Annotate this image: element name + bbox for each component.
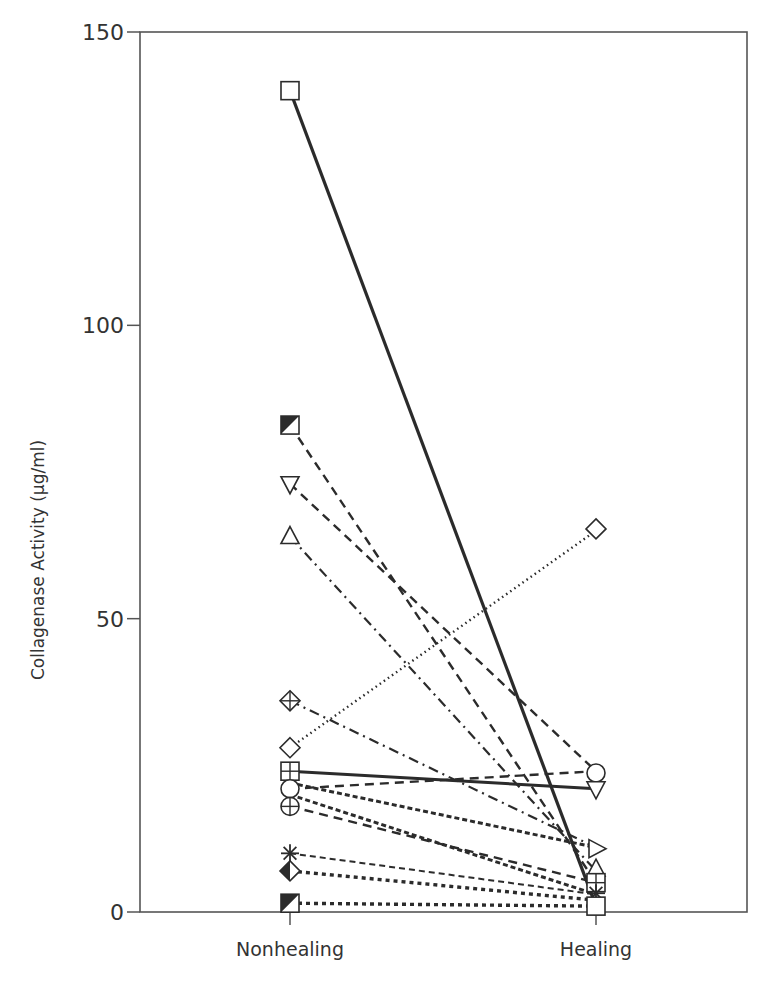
- healing-triangle-right-marker-icon: [589, 840, 606, 858]
- healing-circle-marker-icon: [587, 764, 605, 782]
- nonhealing-down-triangle-marker-icon: [281, 477, 299, 494]
- series-line-circle-plus: [290, 806, 596, 882]
- y-tick-label: 50: [96, 607, 124, 632]
- y-tick-label: 0: [110, 900, 124, 925]
- nonhealing-square-plus-marker-icon: [281, 762, 299, 780]
- series-line-diamond: [290, 531, 596, 748]
- nonhealing-circle-marker-icon: [281, 780, 299, 798]
- x-tick-label-nonhealing: Nonhealing: [236, 938, 344, 960]
- nonhealing-half-diamond-marker-icon: [280, 861, 300, 881]
- x-axis: NonhealingHealing: [236, 912, 632, 960]
- y-tick-label: 100: [82, 313, 124, 338]
- x-tick-label-healing: Healing: [560, 938, 632, 960]
- series-line-up-triangle: [290, 537, 596, 871]
- series-lines: [290, 91, 596, 906]
- chart: 050100150 NonhealingHealing Collagenase …: [0, 0, 767, 984]
- nonhealing-half-filled-square-low-marker-icon: [281, 894, 299, 912]
- y-axis: 050100150: [82, 20, 140, 925]
- series-line-square: [290, 91, 596, 906]
- series-line-half-filled-square-low: [290, 903, 596, 906]
- series-line-half-diamond: [290, 871, 596, 900]
- nonhealing-asterisk-marker-icon: [281, 844, 299, 862]
- y-tick-label: 150: [82, 20, 124, 45]
- nonhealing-diamond-plus-marker-icon: [280, 691, 300, 711]
- nonhealing-square-marker-icon: [281, 82, 299, 100]
- nonhealing-up-triangle-marker-icon: [281, 527, 299, 544]
- series-line-asterisk: [290, 853, 596, 894]
- healing-triangle-down-marker-icon: [587, 782, 605, 799]
- nonhealing-diamond-marker-icon: [280, 738, 300, 758]
- nonhealing-half-filled-square-high-marker-icon: [281, 416, 299, 434]
- healing-square-marker-icon: [587, 897, 605, 915]
- y-axis-title: Collagenase Activity (µg/ml): [28, 440, 48, 680]
- nonhealing-circle-plus-marker-icon: [281, 797, 299, 815]
- series-line-down-triangle: [290, 484, 596, 771]
